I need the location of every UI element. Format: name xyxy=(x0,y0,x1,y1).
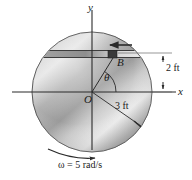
dimension-label-3ft: 3 ft xyxy=(115,101,129,111)
block-b xyxy=(108,51,117,59)
angular-velocity-label: ω = 5 rad/s xyxy=(58,160,102,170)
origin-label: O xyxy=(84,94,92,105)
angle-label: θ xyxy=(104,72,109,83)
figure-canvas xyxy=(0,0,192,180)
mechanics-figure: y x O B θ 2 ft 3 ft ω = 5 rad/s xyxy=(0,0,192,180)
axis-label-y: y xyxy=(88,2,93,13)
axis-label-x: x xyxy=(178,86,183,97)
dimension-label-2ft: 2 ft xyxy=(166,63,180,73)
block-label: B xyxy=(117,57,124,68)
